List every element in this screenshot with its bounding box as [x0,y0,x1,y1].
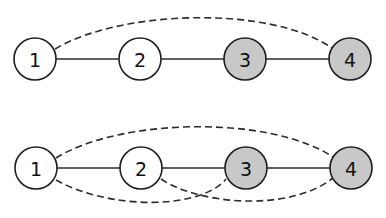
node-2: 2 [119,38,161,80]
dashed-edge-1-4 [55,18,332,49]
node-4: 4 [329,38,371,80]
node-label: 2 [134,49,146,71]
diagram-canvas: 1 2 3 4 1 2 3 [0,0,386,218]
node-3: 3 [225,147,267,189]
node-label: 2 [135,158,147,180]
bottom-graph: 1 2 3 4 [15,127,372,203]
node-label: 4 [345,158,357,180]
top-graph: 1 2 3 4 [14,18,371,80]
node-label: 1 [30,158,42,180]
node-1: 1 [15,147,57,189]
dashed-edge-1-4 [56,127,333,158]
node-label: 4 [344,49,356,71]
node-label: 3 [240,158,252,180]
node-label: 1 [29,49,41,71]
node-label: 3 [239,49,251,71]
node-3: 3 [224,38,266,80]
node-4: 4 [330,147,372,189]
node-1: 1 [14,38,56,80]
node-2: 2 [120,147,162,189]
